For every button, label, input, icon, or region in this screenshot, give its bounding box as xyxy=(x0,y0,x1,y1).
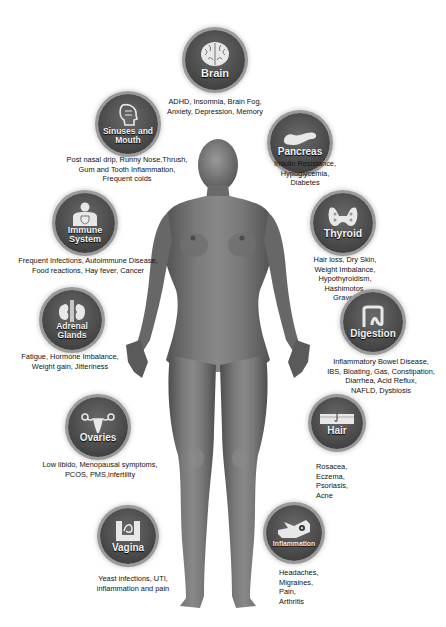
badge-label: Thyroid xyxy=(324,228,363,239)
desc-line: NAFLD, Dysbiosis xyxy=(318,386,444,396)
ovaries-badge: Ovaries xyxy=(68,397,128,457)
desc-line: Hypoglycemia, xyxy=(264,169,346,179)
desc-line: Psoriasis, xyxy=(316,481,376,491)
organ-description: Inflammatory Bowel Disease, IBS, Bloatin… xyxy=(318,357,444,395)
hair-follicle-icon xyxy=(320,410,354,426)
desc-line: Fatigue, Hormone Imbalance, xyxy=(20,352,120,362)
desc-line: Yeast infections, UTI, xyxy=(88,574,178,584)
organ-description: Post nasal drip, Runny Nose,Thrush, Gum … xyxy=(62,155,192,184)
desc-line: Hypothyroidism, xyxy=(310,274,380,284)
desc-line: ADHD, Insomnia, Brain Fog, xyxy=(160,97,270,107)
kidneys-icon xyxy=(57,300,87,322)
organ-description: Yeast infections, UTI, inflammation and … xyxy=(88,574,178,593)
desc-line: IBS, Bloating, Gas, Constipation, xyxy=(318,367,444,377)
inflammation-badge: Inflammation xyxy=(266,505,322,561)
desc-line: Arthritis xyxy=(279,597,339,607)
organ-description: Headaches, Migraines, Pain, Arthritis xyxy=(279,568,339,606)
organ-description: Low libido, Menopausal symptoms, PCOS, P… xyxy=(40,460,160,479)
badge-label: Hair xyxy=(327,426,346,437)
brain-icon xyxy=(199,40,231,68)
desc-line: Diarrhea, Acid Reflux, xyxy=(318,376,444,386)
badge-label-line: Glands xyxy=(56,331,88,340)
pelvis-icon xyxy=(114,519,142,543)
adrenal-badge: Adrenal Glands xyxy=(42,290,102,350)
desc-line: Frequent Infections, Autoimmune Disease, xyxy=(18,256,158,266)
badge-label: Digestion xyxy=(350,329,396,340)
desc-line: Weight gain, Jitteriness xyxy=(20,362,120,372)
organ-description: Rosacea, Eczema, Psoriasis, Acne xyxy=(316,462,376,500)
desc-line: Rosacea, xyxy=(316,462,376,472)
shield-torso-icon xyxy=(71,202,99,226)
desc-line: inflammation and pain xyxy=(88,584,178,594)
head-profile-icon xyxy=(117,103,139,127)
digestion-badge: Digestion xyxy=(343,292,403,352)
badge-label: Pancreas xyxy=(278,147,322,158)
desc-line: Hair loss, Dry Skin, xyxy=(310,255,380,265)
desc-line: Food reactions, Hay fever, Cancer xyxy=(18,266,158,276)
desc-line: Gum and Tooth Inflammation, xyxy=(62,165,192,175)
organ-description: Insulin Resistance, Hypoglycemia, Diabet… xyxy=(264,159,346,188)
desc-line: Anxiety, Depression, Memory xyxy=(160,107,270,117)
desc-line: PCOS, PMS,infertility xyxy=(40,470,160,480)
organ-description: Fatigue, Hormone Imbalance, Weight gain,… xyxy=(20,352,120,371)
badge-label-line: Mouth xyxy=(103,136,153,145)
badge-label: Immune System xyxy=(68,226,103,245)
uterus-icon xyxy=(81,411,115,433)
desc-line: Weight Imbalance, xyxy=(310,265,380,275)
intestine-icon xyxy=(360,305,386,329)
desc-line: Pain, xyxy=(279,587,339,597)
desc-line: Frequent colds xyxy=(62,174,192,184)
badge-label: Sinuses and Mouth xyxy=(103,127,153,145)
organ-description: Frequent Infections, Autoimmune Disease,… xyxy=(18,256,158,275)
desc-line: Headaches, xyxy=(279,568,339,578)
desc-line: Inflammatory Bowel Disease, xyxy=(318,357,444,367)
desc-line: Eczema, xyxy=(316,472,376,482)
pancreas-icon xyxy=(282,129,318,147)
hand-inflammation-icon xyxy=(276,518,312,540)
sinuses-badge: Sinuses and Mouth xyxy=(98,94,158,154)
thyroid-icon xyxy=(327,206,359,228)
badge-label: Brain xyxy=(201,68,229,80)
thyroid-badge: Thyroid xyxy=(313,193,373,253)
brain-badge: Brain xyxy=(185,30,245,90)
badge-label: Inflammation xyxy=(273,540,315,547)
desc-line: Migraines, xyxy=(279,578,339,588)
hair-badge: Hair xyxy=(311,397,363,449)
badge-label: Adrenal Glands xyxy=(56,322,88,340)
desc-line: Acne xyxy=(316,491,376,501)
desc-line: Insulin Resistance, xyxy=(264,159,346,169)
vagina-badge: Vagina xyxy=(100,508,156,564)
desc-line: Diabetes xyxy=(264,178,346,188)
badge-label: Ovaries xyxy=(80,433,117,444)
badge-label: Vagina xyxy=(112,543,144,554)
desc-line: Post nasal drip, Runny Nose,Thrush, xyxy=(62,155,192,165)
organ-description: ADHD, Insomnia, Brain Fog, Anxiety, Depr… xyxy=(160,97,270,116)
badge-label-line: System xyxy=(68,235,103,244)
desc-line: Low libido, Menopausal symptoms, xyxy=(40,460,160,470)
immune-badge: Immune System xyxy=(55,193,115,253)
